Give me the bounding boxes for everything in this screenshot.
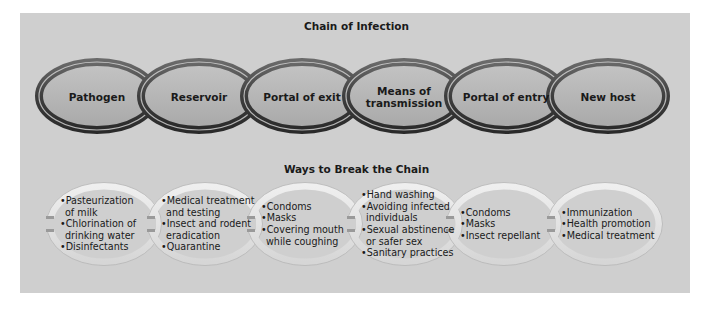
chain-link-label: Portal of exit: [263, 91, 340, 103]
break-chain-item: •Disinfectants: [60, 241, 136, 253]
chain-link-label: Reservoir: [171, 91, 228, 103]
break-chain-item: •Sexual abstinenceor safer sex: [361, 224, 454, 247]
break-chain-item: •Medical treatment: [561, 230, 655, 242]
break-chain-item: •Immunization: [561, 207, 655, 219]
chain-rings-layer: [0, 0, 713, 315]
break-chain-list: •Condoms•Masks•Insect repellant: [460, 207, 540, 242]
break-chain-item: •Masks: [460, 218, 540, 230]
break-chain-item: •Sanitary practices: [361, 247, 454, 259]
break-chain-item: •Avoiding infectedindividuals: [361, 201, 454, 224]
chain-link-label: New host: [580, 91, 635, 103]
chain-link-label: Portal of entry: [463, 91, 550, 103]
break-chain-title: Ways to Break the Chain: [0, 163, 713, 175]
break-chain-list: •Immunization•Health promotion•Medical t…: [561, 207, 655, 242]
break-chain-item: •Pasteurizationof milk: [60, 195, 136, 218]
break-chain-list: •Pasteurizationof milk•Chlorination ofdr…: [60, 195, 136, 253]
break-chain-item: •Quarantine: [161, 241, 255, 253]
break-chain-item: •Masks: [261, 212, 344, 224]
chain-link-label: Pathogen: [69, 91, 125, 103]
break-chain-item: •Insect and rodenteradication: [161, 218, 255, 241]
break-chain-item: •Hand washing: [361, 189, 454, 201]
break-chain-list: •Hand washing•Avoiding infectedindividua…: [361, 189, 454, 259]
break-chain-item: •Medical treatmentand testing: [161, 195, 255, 218]
break-chain-list: •Medical treatmentand testing•Insect and…: [161, 195, 255, 253]
break-chain-item: •Condoms: [261, 201, 344, 213]
break-chain-item: •Chlorination ofdrinking water: [60, 218, 136, 241]
break-chain-list: •Condoms•Masks•Covering mouthwhile cough…: [261, 201, 344, 247]
break-chain-item: •Covering mouthwhile coughing: [261, 224, 344, 247]
break-chain-item: •Insect repellant: [460, 230, 540, 242]
chain-link-label: Means oftransmission: [366, 85, 442, 109]
break-chain-item: •Health promotion: [561, 218, 655, 230]
break-chain-item: •Condoms: [460, 207, 540, 219]
